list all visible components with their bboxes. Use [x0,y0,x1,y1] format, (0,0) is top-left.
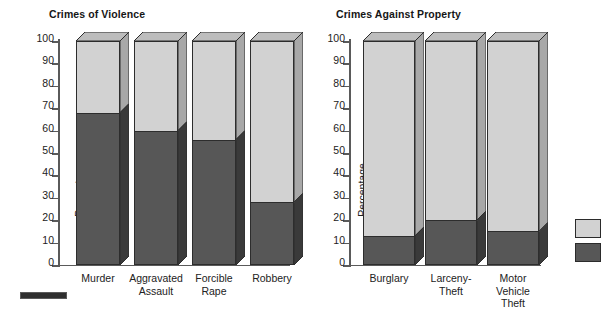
y-axis-line-left [58,39,60,267]
bar-forcible-rape: Forcible Rape [192,41,236,265]
x-category-label: Motor Vehicle Theft [496,272,530,310]
legend-upper-swatch [575,219,601,238]
bar-side-face [539,41,548,265]
bar-front-face [134,41,178,265]
y-tick-label: 20 [42,212,54,223]
bar-front-face [487,41,539,265]
plot-area-property: Percentage 0102030405060708090100 Burgla… [349,41,539,265]
bar-top-face [134,32,187,41]
legend-lower-swatch [575,243,601,262]
y-tick-label: 20 [333,212,345,223]
bar-larceny--theft: Larceny- Theft [425,41,477,265]
bar-segment-lower [250,202,294,265]
bar-robbery: Robbery [250,41,294,265]
bar-segment-lower [363,236,415,265]
y-tick-label: 10 [42,235,54,246]
scale-rule-marker [20,292,67,299]
bar-segment-lower [76,113,120,265]
x-category-label: Larceny- Theft [431,272,472,297]
bar-front-face [192,41,236,265]
bar-top-face [192,32,245,41]
y-tick-label: 10 [333,235,345,246]
chart-title-violence: Crimes of Violence [49,8,145,20]
chart-title-property: Crimes Against Property [336,8,461,20]
x-category-label: Forcible Rape [195,272,232,297]
bar-segment-lower [134,131,178,265]
y-tick-label: 80 [42,78,54,89]
x-category-label: Murder [81,272,114,285]
bar-segment-upper [192,41,236,140]
bar-front-face [425,41,477,265]
y-tick-label: 60 [333,123,345,134]
y-tick-label: 90 [333,55,345,66]
y-tick-label: 50 [42,145,54,156]
y-tick-label: 100 [36,33,54,44]
bar-segment-upper [425,41,477,220]
y-tick-label: 90 [42,55,54,66]
bar-front-face [76,41,120,265]
bar-side-face [120,41,129,265]
chart-panel-violence: Crimes of Violence Percentage 0102030405… [0,0,300,317]
bar-top-face [250,32,303,41]
y-tick-label: 80 [333,78,345,89]
bar-front-face [363,41,415,265]
bar-segment-lower [425,220,477,265]
x-category-label: Burglary [369,272,408,285]
x-category-label: Aggravated Assault [129,272,183,297]
bar-segment-lower [192,140,236,265]
bar-motor-vehicle-theft: Motor Vehicle Theft [487,41,539,265]
y-tick-label: 100 [327,33,345,44]
bar-top-face [425,32,486,41]
bar-segment-lower [487,231,539,265]
bar-segment-upper [76,41,120,113]
bar-top-face [363,32,424,41]
x-category-label: Robbery [252,272,292,285]
y-axis-line-right [349,39,351,267]
y-tick-label: 60 [42,123,54,134]
y-tick-label: 30 [42,190,54,201]
y-tick-label: 40 [333,167,345,178]
y-tick-label: 50 [333,145,345,156]
bar-front-face [250,41,294,265]
y-tick-label: 0 [48,257,54,268]
bar-side-face [178,41,187,265]
bar-side-face [236,41,245,265]
bar-segment-upper [134,41,178,131]
y-tick-label: 0 [339,257,345,268]
legend [575,219,605,267]
bar-side-face [477,41,486,265]
bar-aggravated-assault: Aggravated Assault [134,41,178,265]
bar-murder: Murder [76,41,120,265]
bar-burglary: Burglary [363,41,415,265]
y-tick-label: 30 [333,190,345,201]
bar-segment-upper [250,41,294,202]
bar-top-face [76,32,129,41]
y-tick-label: 70 [333,100,345,111]
chart-panel-property: Crimes Against Property Percentage 01020… [300,0,594,317]
plot-area-violence: Percentage 0102030405060708090100 Murder… [58,41,288,265]
bar-segment-upper [487,41,539,231]
bar-top-face [487,32,548,41]
bar-side-face [415,41,424,265]
bar-segment-upper [363,41,415,236]
y-tick-label: 40 [42,167,54,178]
y-tick-label: 70 [42,100,54,111]
